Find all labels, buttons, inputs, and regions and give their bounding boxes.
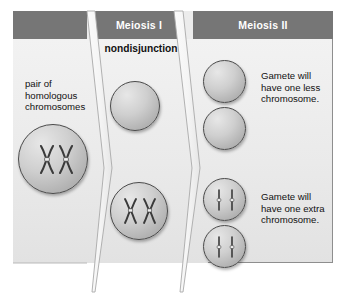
label-gamete-less-line-1: Gamete will — [261, 70, 343, 82]
meiosis-ii-gamete-2 — [203, 107, 246, 150]
meiosis-ii-gamete-1 — [203, 60, 246, 103]
meiosis-i-bottom-chromosomes — [111, 183, 169, 241]
meiosis-i-cell-bottom — [110, 182, 168, 240]
label-homologous-line-2: homologous — [25, 90, 103, 102]
header-parent-cell — [13, 11, 87, 39]
label-gamete-extra-line-3: chromosome. — [261, 214, 343, 226]
label-gamete-less-line-2: have one less — [261, 82, 343, 94]
gamete-3-chromosomes — [204, 179, 247, 222]
label-nondisjunction: nondisjunction — [95, 43, 187, 55]
meiosis-ii-gamete-3 — [203, 178, 246, 221]
label-homologous-line-1: pair of — [25, 78, 103, 90]
parent-cell-chromosomes — [19, 125, 89, 195]
diagram-canvas: Meiosis I Meiosis II pair of homologous … — [0, 0, 346, 301]
label-gamete-less-line-3: chromosome. — [261, 93, 343, 105]
gamete-4-chromosomes — [204, 226, 247, 269]
parent-cell — [18, 124, 88, 194]
label-gamete-extra-line-1: Gamete will — [261, 191, 343, 203]
header-meiosis-ii: Meiosis II — [193, 11, 333, 39]
label-gamete-one-extra: Gamete will have one extra chromosome. — [261, 191, 343, 226]
label-gamete-extra-line-2: have one extra — [261, 203, 343, 215]
label-homologous-pair: pair of homologous chromosomes — [25, 78, 103, 113]
label-homologous-line-3: chromosomes — [25, 101, 103, 113]
meiosis-i-cell-top — [110, 81, 160, 131]
header-meiosis-i: Meiosis I — [95, 11, 183, 39]
meiosis-ii-gamete-4 — [203, 225, 246, 268]
label-gamete-one-less: Gamete will have one less chromosome. — [261, 70, 343, 105]
